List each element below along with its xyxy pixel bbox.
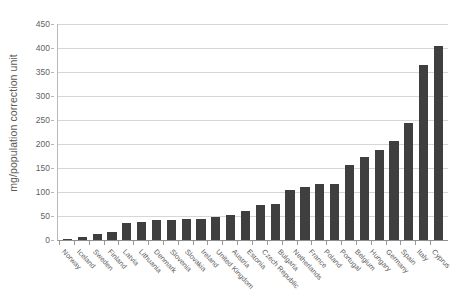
plot-area — [57, 24, 448, 241]
x-label-slot: Hungary — [368, 246, 383, 305]
bar — [360, 157, 369, 240]
x-axis-tick-mark — [193, 241, 208, 245]
bar-series — [58, 24, 448, 240]
y-axis-tick-label: 400 — [36, 43, 50, 53]
y-axis-tick-label: 300 — [36, 91, 50, 101]
x-axis-tick-mark — [178, 241, 193, 245]
y-axis-tick-label: 250 — [36, 115, 50, 125]
x-label-slot: Netherlands — [291, 246, 306, 305]
x-axis-tick-mark — [104, 241, 119, 245]
x-label-slot: Poland — [321, 246, 336, 305]
bar — [330, 184, 339, 240]
bar — [152, 220, 161, 240]
x-axis-tick-mark — [386, 241, 401, 245]
x-axis-tick-mark — [430, 241, 445, 245]
x-label-slot: Germany — [383, 246, 398, 305]
bar — [345, 165, 354, 240]
x-label-slot: United Kingdom — [213, 246, 228, 305]
bar-slot — [149, 24, 164, 240]
y-axis-tick-label: 100 — [36, 187, 50, 197]
bar-slot — [342, 24, 357, 240]
bar — [93, 234, 102, 240]
bar — [107, 232, 116, 240]
x-axis-tick-mark — [222, 241, 237, 245]
bar — [256, 205, 265, 240]
x-axis-tick-mark — [341, 241, 356, 245]
x-label-slot: Denmark — [152, 246, 167, 305]
bar-slot — [283, 24, 298, 240]
y-axis-tick-mark — [51, 72, 54, 73]
y-axis-tick-mark — [51, 192, 54, 193]
bar-slot — [387, 24, 402, 240]
bar-slot — [327, 24, 342, 240]
y-axis-tick-mark — [51, 240, 54, 241]
bar-slot — [60, 24, 75, 240]
bar — [419, 65, 428, 240]
bar — [211, 217, 220, 240]
bar — [196, 219, 205, 240]
bar-slot — [253, 24, 268, 240]
x-axis-tick-mark — [59, 241, 74, 245]
x-axis-tick-mark — [326, 241, 341, 245]
bar-slot — [208, 24, 223, 240]
x-axis-tick-mark — [148, 241, 163, 245]
bar-slot — [75, 24, 90, 240]
y-axis-tick-label: 200 — [36, 139, 50, 149]
bar-slot — [431, 24, 446, 240]
bar-chart: mg/population correction unit 0501001502… — [0, 0, 455, 305]
bar — [78, 237, 87, 240]
x-axis-tick-mark — [297, 241, 312, 245]
bar — [375, 150, 384, 240]
x-axis-tick-mark — [118, 241, 133, 245]
bar-slot — [119, 24, 134, 240]
bar-slot — [268, 24, 283, 240]
y-axis-tick-label: 450 — [36, 19, 50, 29]
bar — [434, 46, 443, 240]
x-axis-tick-mark — [415, 241, 430, 245]
x-axis-tick-mark — [207, 241, 222, 245]
x-label-slot: Finland — [105, 246, 120, 305]
y-axis-tick-mark — [51, 168, 54, 169]
y-axis-tick-label: 150 — [36, 163, 50, 173]
bar — [389, 141, 398, 240]
bar — [226, 215, 235, 240]
bar — [241, 211, 250, 240]
x-label-slot: France — [306, 246, 321, 305]
bar — [300, 187, 309, 240]
x-label-slot: Italy — [414, 246, 429, 305]
x-label-slot: Slovakia — [183, 246, 198, 305]
bar-slot — [401, 24, 416, 240]
x-label-slot: Latvia — [121, 246, 136, 305]
bar-slot — [179, 24, 194, 240]
bar — [137, 222, 146, 240]
bar — [63, 239, 72, 240]
y-axis-tick-mark — [51, 96, 54, 97]
x-axis-tick-mark — [163, 241, 178, 245]
bar-slot — [105, 24, 120, 240]
bar — [271, 204, 280, 240]
x-axis-tick-label: Cyprus — [431, 248, 452, 270]
y-axis-tick-label: 50 — [41, 211, 50, 221]
bar-slot — [372, 24, 387, 240]
x-label-slot: Norway — [59, 246, 74, 305]
x-axis-tick-mark — [371, 241, 386, 245]
x-label-slot: Estonia — [244, 246, 259, 305]
x-label-slot: Sweden — [90, 246, 105, 305]
bar — [182, 219, 191, 240]
x-axis-tick-marks — [57, 241, 447, 245]
x-axis-tick-mark — [252, 241, 267, 245]
bar — [285, 190, 294, 240]
x-axis-tick-labels: NorwayIcelandSwedenFinlandLatviaLithuani… — [57, 246, 447, 305]
x-axis-tick-mark — [311, 241, 326, 245]
x-axis-tick-mark — [356, 241, 371, 245]
x-label-slot: Portugal — [337, 246, 352, 305]
bar — [122, 223, 131, 240]
y-axis-tick-mark — [51, 48, 54, 49]
x-label-slot: Cyprus — [430, 246, 445, 305]
bar — [315, 184, 324, 240]
bar-slot — [164, 24, 179, 240]
x-label-slot: Spain — [399, 246, 414, 305]
x-axis-tick-label: Italy — [416, 248, 430, 263]
y-axis-tick-mark — [51, 120, 54, 121]
x-label-slot: Austria — [229, 246, 244, 305]
